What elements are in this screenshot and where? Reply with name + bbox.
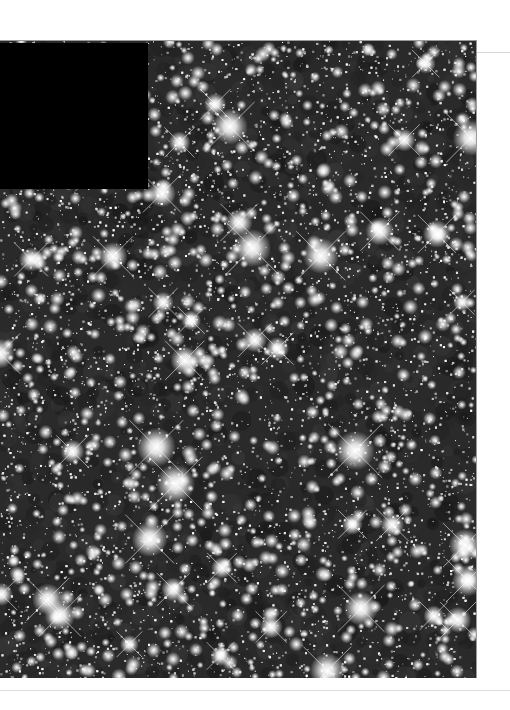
- masked-black-region: [0, 43, 148, 189]
- star-field-image: [0, 40, 477, 678]
- divider-line-top: [476, 52, 510, 53]
- divider-line-bottom: [0, 690, 510, 691]
